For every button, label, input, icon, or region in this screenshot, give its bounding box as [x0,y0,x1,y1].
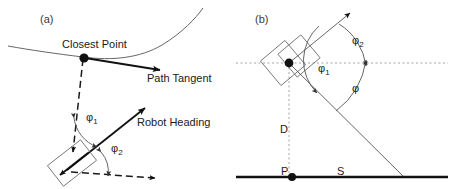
heading-arrow-b [289,13,350,63]
path-curve [8,8,203,59]
phi2-label-b: φ2 [352,34,364,49]
robot-center-dot [285,59,294,68]
panel-b: (b) φ2 φ1 φ D P S [236,13,448,181]
phi2-arc-a [101,152,108,176]
closest-point-label: Closest Point [62,38,127,50]
ray-to-surface-line [289,63,404,177]
phi1-label-b: φ1 [318,62,330,77]
point-label-p: P [281,165,288,177]
panel-b-tag: (b) [255,13,268,25]
closest-point-dot [79,53,88,62]
distance-label-d: D [280,123,288,135]
phi-arc-b [336,60,366,111]
surface-label-s: S [337,165,344,177]
robot-heading-label: Robot Heading [137,116,210,128]
phi-label-b: φ [352,82,359,94]
figure-container: (a) Closest Point Path Tangent Robot Hea… [0,0,453,189]
path-tangent-label: Path Tangent [147,72,212,84]
robot-body-a [47,140,96,186]
closest-point-to-robot-line [73,59,83,152]
diagram-canvas: (a) Closest Point Path Tangent Robot Hea… [0,0,453,189]
phi1-arc-b [303,26,319,93]
panel-a-tag: (a) [40,13,53,25]
phi2-label-a: φ2 [111,142,123,157]
panel-a: (a) Closest Point Path Tangent Robot Hea… [8,8,212,186]
phi1-label-a: φ1 [86,111,98,126]
path-tangent-arrow [85,58,160,70]
robot-reference-axis [71,172,155,178]
point-p-dot [288,173,296,181]
